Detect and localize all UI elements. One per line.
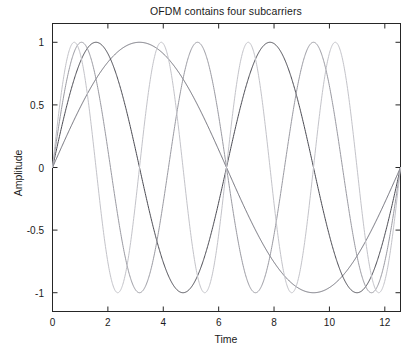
x-axis-label: Time [52,333,400,345]
x-tick-label: 4 [160,317,166,328]
y-tick-label: 1 [10,37,44,48]
figure-canvas: OFDM contains four subcarriers 10.50-0.5… [0,0,416,357]
y-tick-label: 0.5 [10,99,44,110]
x-tick-label: 10 [324,317,335,328]
y-tick-label: -0.5 [10,225,44,236]
x-tick-label: 0 [50,317,56,328]
y-tick-label: -1 [10,287,44,298]
x-tick-label: 6 [216,317,222,328]
y-axis-label: Amplitude [12,133,24,213]
plot-area [0,0,416,357]
x-tick-label: 2 [105,317,111,328]
x-tick-label: 12 [379,317,390,328]
x-tick-label: 8 [271,317,277,328]
